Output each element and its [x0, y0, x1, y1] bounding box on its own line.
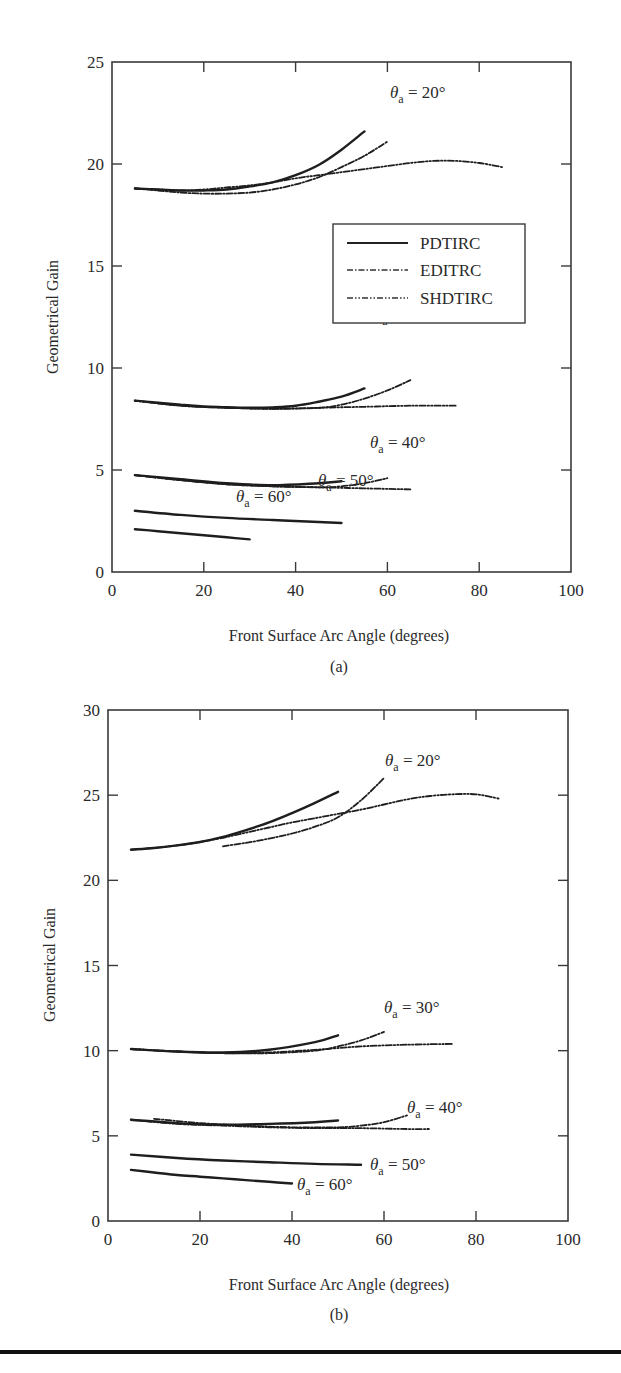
plot-frame-b [108, 710, 568, 1221]
angle-annotation: θa = 30° [384, 998, 440, 1021]
x-tick-label: 40 [287, 581, 304, 600]
y-axis-label-b: Geometrical Gain [41, 908, 58, 1022]
ticks-b: 020406080100051015202530 [83, 701, 581, 1249]
legend-label-shdtirc: SHDTIRC [420, 289, 493, 308]
angle-annotation: θa = 40° [407, 1098, 463, 1121]
angle-value: = 20° [404, 83, 446, 102]
caption-a: (a) [330, 658, 348, 676]
y-tick-label: 0 [92, 1212, 101, 1231]
y-tick-label: 25 [87, 53, 104, 72]
x-tick-label: 60 [376, 1230, 393, 1249]
theta-symbol: θ [385, 751, 393, 770]
x-tick-label: 40 [284, 1230, 301, 1249]
angle-value: = 20° [399, 751, 441, 770]
x-tick-label: 0 [108, 581, 117, 600]
series-editrc-line [135, 142, 388, 194]
angle-annotation: θa = 20° [385, 751, 441, 774]
theta-symbol: θ [390, 83, 398, 102]
angle-annotation: θa = 60° [236, 487, 292, 510]
angle-value: = 50° [332, 471, 374, 490]
bottom-rule [0, 1350, 621, 1354]
chart-panel-b: 020406080100051015202530 θa = 20°θa = 30… [41, 701, 581, 1324]
x-tick-label: 100 [558, 581, 584, 600]
angle-value: = 40° [384, 433, 426, 452]
y-tick-label: 15 [83, 957, 100, 976]
angle-annotation: θa = 60° [297, 1175, 353, 1198]
angle-annotation: θa = 40° [370, 433, 426, 456]
theta-symbol: θ [236, 487, 244, 506]
series-editrc-line [154, 1115, 407, 1127]
theta-symbol: θ [318, 471, 326, 490]
series-pdtirc-line [135, 529, 250, 539]
series-pdtirc-line [131, 792, 338, 850]
y-tick-label: 5 [92, 1127, 101, 1146]
annotations-b: θa = 20°θa = 30°θa = 40°θa = 50°θa = 60° [297, 751, 463, 1198]
x-axis-label-a: Front Surface Arc Angle (degrees) [229, 627, 449, 645]
angle-annotation: θa = 50° [370, 1155, 426, 1178]
angle-annotation: θa = 20° [390, 83, 446, 106]
angle-value: = 30° [398, 998, 440, 1017]
angle-value: = 50° [384, 1155, 426, 1174]
theta-symbol: θ [370, 433, 378, 452]
x-tick-label: 80 [468, 1230, 485, 1249]
series-pdtirc-line [135, 511, 342, 523]
y-tick-label: 20 [87, 155, 104, 174]
y-axis-label-a: Geometrical Gain [44, 260, 61, 374]
figure: 0204060801000510152025 θa = 20°θa = 30°θ… [0, 0, 621, 1373]
series-pdtirc-line [131, 1170, 292, 1184]
x-tick-label: 100 [555, 1230, 581, 1249]
series-pdtirc-line [131, 1155, 361, 1165]
y-tick-label: 25 [83, 786, 100, 805]
series-editrc-line [223, 778, 384, 846]
legend: PDTIRC EDITRC SHDTIRC [333, 224, 525, 323]
chart-panel-a: 0204060801000510152025 θa = 20°θa = 30°θ… [44, 53, 584, 676]
series-pdtirc-line [135, 475, 342, 485]
theta-symbol: θ [370, 1155, 378, 1174]
theta-symbol: θ [407, 1098, 415, 1117]
ticks-a: 0204060801000510152025 [87, 53, 584, 600]
y-tick-label: 10 [87, 359, 104, 378]
y-tick-label: 20 [83, 871, 100, 890]
series-pdtirc-line [135, 131, 365, 190]
theta-symbol: θ [384, 998, 392, 1017]
y-tick-label: 10 [83, 1042, 100, 1061]
angle-value: = 60° [311, 1175, 353, 1194]
y-tick-label: 0 [96, 563, 105, 582]
x-tick-label: 20 [192, 1230, 209, 1249]
x-axis-label-b: Front Surface Arc Angle (degrees) [229, 1276, 449, 1294]
angle-value: = 40° [421, 1098, 463, 1117]
x-tick-label: 60 [379, 581, 396, 600]
curves-b [131, 778, 499, 1183]
x-tick-label: 80 [471, 581, 488, 600]
angle-value: = 60° [250, 487, 292, 506]
x-tick-label: 20 [195, 581, 212, 600]
x-tick-label: 0 [104, 1230, 113, 1249]
y-tick-label: 30 [83, 701, 100, 720]
caption-b: (b) [330, 1306, 349, 1324]
y-tick-label: 5 [96, 461, 105, 480]
angle-annotation: θa = 50° [318, 471, 374, 494]
theta-symbol: θ [297, 1175, 305, 1194]
legend-label-pdtirc: PDTIRC [420, 234, 480, 253]
y-tick-label: 15 [87, 257, 104, 276]
legend-label-editrc: EDITRC [420, 261, 481, 280]
series-shdtirc-line [131, 1044, 453, 1053]
